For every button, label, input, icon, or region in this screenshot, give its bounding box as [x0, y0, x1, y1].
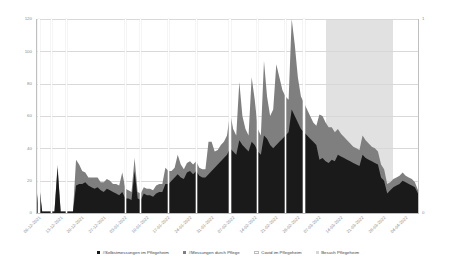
covid-marker-7 [196, 19, 197, 213]
series-areas [36, 19, 418, 213]
x-tick-21-03-2022: 21-03-2022 [346, 215, 365, 234]
covid-marker-6 [168, 19, 169, 213]
y-axis-left-line [36, 19, 37, 213]
x-tick-20-12-2021: 20-12-2021 [66, 215, 85, 234]
legend-label: #Selbstmessungen im Pflegeheim [103, 250, 169, 255]
x-tick-28-03-2022: 28-03-2022 [367, 215, 386, 234]
x-tick-17-01-2022: 17-01-2022 [152, 215, 171, 234]
legend-item-4[interactable]: Besuch Pflegeheim [316, 250, 359, 255]
y-tick-20: 20 [2, 178, 32, 183]
x-tick-31-01-2022: 31-01-2022 [195, 215, 214, 234]
x-tick-10-01-2022: 10-01-2022 [130, 215, 149, 234]
x-tick-14-02-2022: 14-02-2022 [238, 215, 257, 234]
y2-tick-1: 1 [422, 16, 448, 21]
covid-marker-10 [285, 19, 286, 213]
covid-marker-11 [303, 19, 304, 213]
x-tick-14-03-2022: 14-03-2022 [324, 215, 343, 234]
y-axis-right-line [418, 19, 419, 213]
y-tick-40: 40 [2, 146, 32, 151]
x-tick-04-04-2022: 04-04-2022 [389, 215, 408, 234]
x-tick-03-01-2022: 03-01-2022 [109, 215, 128, 234]
x-tick-27-12-2021: 27-12-2021 [87, 215, 106, 234]
x-tick-24-01-2022: 24-01-2022 [173, 215, 192, 234]
legend-item-2[interactable]: #Messungen durch Pflege [183, 250, 240, 255]
chart-container: 020406080100120 01 06-12-202113-12-20212… [0, 0, 456, 267]
legend-swatch-icon [97, 251, 100, 254]
x-axis-labels: 06-12-202113-12-202120-12-202127-12-2021… [36, 215, 418, 249]
plot-area [36, 19, 418, 213]
legend-swatch-icon [316, 251, 319, 254]
covid-marker-3 [66, 19, 67, 213]
legend-item-3[interactable]: Covid im Pflegeheim [254, 250, 302, 255]
x-tick-13-12-2021: 13-12-2021 [44, 215, 63, 234]
covid-marker-5 [140, 19, 141, 213]
covid-marker-2 [51, 19, 52, 213]
covid-marker-8 [229, 19, 230, 213]
legend-label: Besuch Pflegeheim [321, 250, 359, 255]
legend-label: Covid im Pflegeheim [261, 250, 301, 255]
chart-legend: #Selbstmessungen im Pflegeheim#Messungen… [0, 250, 456, 255]
y-tick-0: 0 [2, 210, 32, 215]
legend-label: #Messungen durch Pflege [189, 250, 240, 255]
x-tick-06-12-2021: 06-12-2021 [22, 215, 41, 234]
covid-marker-9 [257, 19, 258, 213]
legend-swatch-icon [254, 251, 259, 254]
covid-marker-1 [38, 19, 39, 213]
x-tick-07-03-2022: 07-03-2022 [303, 215, 322, 234]
x-axis-line [36, 213, 419, 214]
legend-item-1[interactable]: #Selbstmessungen im Pflegeheim [97, 250, 169, 255]
y-tick-80: 80 [2, 81, 32, 86]
y-tick-100: 100 [2, 49, 32, 54]
covid-marker-4 [125, 19, 126, 213]
legend-swatch-icon [183, 251, 186, 254]
x-tick-28-02-2022: 28-02-2022 [281, 215, 300, 234]
y2-tick-0: 0 [422, 210, 448, 215]
y-tick-120: 120 [2, 16, 32, 21]
x-tick-07-02-2022: 07-02-2022 [217, 215, 236, 234]
x-tick-21-02-2022: 21-02-2022 [260, 215, 279, 234]
y-tick-60: 60 [2, 113, 32, 118]
